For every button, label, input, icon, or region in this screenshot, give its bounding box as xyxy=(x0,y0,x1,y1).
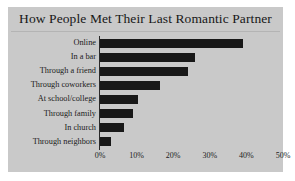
category-label: At school/college xyxy=(8,93,99,107)
bar xyxy=(100,53,195,62)
axis-baseline xyxy=(99,149,100,150)
chart-figure: How People Met Their Last Romantic Partn… xyxy=(8,7,283,172)
category-label: Through neighbors xyxy=(8,135,99,149)
category-label: In church xyxy=(8,121,99,135)
x-tick-label: 50% xyxy=(276,151,291,160)
bar-row xyxy=(100,107,283,121)
category-label: Through a friend xyxy=(8,64,99,78)
x-tick-label: 10% xyxy=(129,151,144,160)
chart-title-area: How People Met Their Last Romantic Partn… xyxy=(8,7,283,30)
x-tick-label: 20% xyxy=(166,151,181,160)
category-label: Through family xyxy=(8,107,99,121)
bar-series xyxy=(100,36,283,149)
bar-row xyxy=(100,93,283,107)
bar xyxy=(100,137,111,146)
bar xyxy=(100,67,188,76)
bar-row xyxy=(100,121,283,135)
plot-area: Online In a bar Through a friend Through… xyxy=(8,33,283,172)
category-axis-labels: Online In a bar Through a friend Through… xyxy=(8,36,99,149)
category-label: In a bar xyxy=(8,50,99,64)
bar-row xyxy=(100,36,283,50)
bar-row xyxy=(100,135,283,149)
category-label: Through coworkers xyxy=(8,78,99,92)
bar xyxy=(100,95,138,104)
x-tick-label: 30% xyxy=(202,151,217,160)
value-axis-ticks: 0%10%20%30%40%50% xyxy=(100,151,283,165)
bar xyxy=(100,81,160,90)
bar-row xyxy=(100,64,283,78)
bar xyxy=(100,39,243,48)
chart-title: How People Met Their Last Romantic Partn… xyxy=(19,11,272,27)
category-label: Online xyxy=(8,36,99,50)
x-tick-label: 0% xyxy=(95,151,106,160)
bar-row xyxy=(100,50,283,64)
bar xyxy=(100,109,133,118)
title-separator xyxy=(11,31,280,32)
x-tick-label: 40% xyxy=(239,151,254,160)
bar-row xyxy=(100,78,283,92)
bar xyxy=(100,123,124,132)
